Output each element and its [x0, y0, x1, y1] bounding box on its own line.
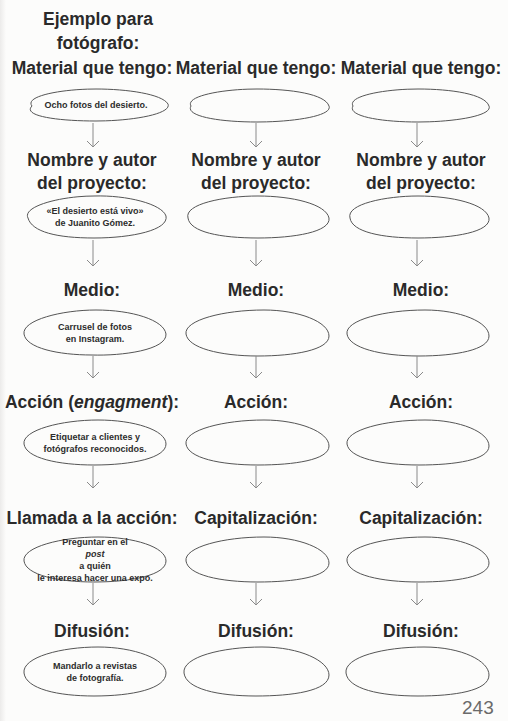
- page-edge-shadow: [0, 0, 6, 721]
- step-heading-medium: Medio:: [170, 279, 342, 301]
- step-heading-action: Acción:: [170, 391, 342, 413]
- step-heading-capitalization: Capitalización:: [170, 507, 342, 529]
- answer-text-line1: «El desierto está vivo»: [46, 205, 143, 217]
- answer-bubble-material[interactable]: [345, 86, 491, 123]
- arrow-down-icon: [410, 123, 424, 149]
- step-heading-action: Acción:: [334, 391, 508, 413]
- answer-bubble-action[interactable]: [184, 418, 331, 467]
- step-heading-capitalization: Capitalización:: [334, 507, 508, 529]
- answer-bubble-medium[interactable]: [345, 308, 491, 358]
- arrow-down-icon: [86, 123, 100, 149]
- answer-bubble-project-name-example: «El desierto está vivo»de Juanito Gómez.: [22, 194, 168, 240]
- arrow-down-icon: [410, 240, 424, 268]
- step-heading-material: Material que tengo:: [334, 57, 508, 79]
- answer-bubble-action[interactable]: [345, 418, 491, 467]
- heading-italic-term: engagment: [74, 392, 167, 412]
- example-title: Ejemplo para fotógrafo:: [18, 8, 178, 54]
- step-heading-project-name: Nombre y autor del proyecto:: [0, 149, 184, 194]
- step-heading-material: Material que tengo:: [170, 57, 342, 79]
- answer-bubble-material-example: Ocho fotos del desierto.: [22, 86, 170, 123]
- answer-text-line2: de Juanito Gómez.: [46, 217, 143, 229]
- arrow-down-icon: [86, 240, 100, 268]
- step-heading-medium: Medio:: [0, 279, 184, 301]
- answer-bubble-capitalization[interactable]: [184, 535, 331, 584]
- step-heading-medium: Medio:: [334, 279, 508, 301]
- step-heading-project-name: Nombre y autor del proyecto:: [170, 149, 342, 194]
- answer-bubble-project-name[interactable]: [346, 194, 491, 240]
- step-heading-material: Material que tengo:: [0, 57, 184, 79]
- step-heading-distribution: Difusión:: [170, 620, 342, 642]
- answer-text: Ocho fotos del desierto.: [44, 99, 147, 111]
- arrow-down-icon: [410, 356, 424, 380]
- arrow-down-icon: [86, 466, 100, 490]
- arrow-down-icon: [249, 356, 263, 380]
- answer-bubble-distribution-example: Mandarlo a revistasde fotografía.: [22, 645, 168, 698]
- arrow-down-icon: [249, 466, 263, 490]
- answer-bubble-capitalization[interactable]: [345, 535, 491, 584]
- answer-italic-term: post: [86, 549, 105, 559]
- answer-bubble-medium-example: Carrusel de fotosen Instagram.: [22, 308, 168, 358]
- page-number: 243: [462, 697, 494, 719]
- arrow-down-icon: [249, 583, 263, 607]
- example-title-line2: fotógrafo:: [18, 32, 178, 54]
- step-heading-action: Acción (engagment):: [0, 391, 184, 413]
- arrow-down-icon: [410, 466, 424, 490]
- arrow-down-icon: [86, 356, 100, 380]
- arrow-down-icon: [249, 123, 263, 149]
- answer-bubble-project-name[interactable]: [184, 194, 331, 240]
- step-heading-distribution: Difusión:: [0, 620, 184, 642]
- arrow-down-icon: [410, 583, 424, 607]
- example-title-line1: Ejemplo para: [18, 8, 178, 30]
- answer-bubble-call-to-action-example: Preguntar en el post a quiénle interesa …: [22, 535, 168, 584]
- answer-bubble-action-example: Etiquetar a clientes yfotógrafos reconoc…: [22, 418, 168, 467]
- step-heading-call-to-action: Llamada a la acción:: [0, 507, 184, 529]
- step-heading-project-name: Nombre y autor del proyecto:: [334, 149, 508, 194]
- step-heading-distribution: Difusión:: [334, 620, 508, 642]
- arrow-down-icon: [86, 583, 100, 607]
- answer-bubble-material[interactable]: [183, 86, 331, 123]
- answer-bubble-medium[interactable]: [184, 308, 331, 358]
- answer-bubble-distribution[interactable]: [344, 645, 491, 698]
- answer-bubble-distribution[interactable]: [182, 645, 331, 698]
- arrow-down-icon: [249, 240, 263, 268]
